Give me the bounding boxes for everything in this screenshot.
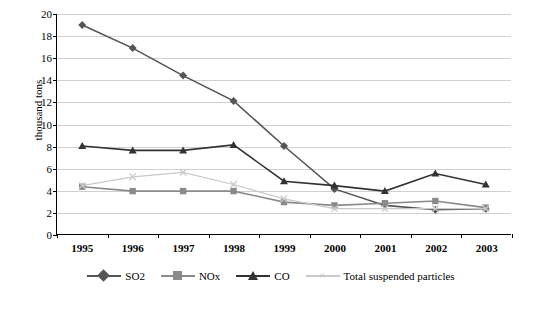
x-tick-label: 2001 <box>375 242 397 254</box>
legend-swatch-icon <box>87 270 121 282</box>
x-tick-mark <box>209 234 210 238</box>
data-point <box>483 204 489 210</box>
y-tick-label: 20 <box>41 8 52 20</box>
legend-item-so2[interactable]: SO2 <box>87 270 145 282</box>
y-axis-title: thousand tons <box>32 50 44 170</box>
y-tick-label: 4 <box>47 185 53 197</box>
x-tick-mark <box>512 234 513 238</box>
x-tick-label: 1998 <box>223 242 245 254</box>
y-tick-label: 14 <box>41 74 52 86</box>
legend-item-nox[interactable]: NOx <box>161 270 220 282</box>
x-tick-label: 1995 <box>71 242 93 254</box>
data-point <box>79 184 85 190</box>
x-tick-mark <box>57 234 58 238</box>
y-tick-label: 16 <box>41 52 52 64</box>
data-point <box>432 198 438 204</box>
y-tick-label: 8 <box>47 141 53 153</box>
chart-legend: SO2NOxCO×Total suspended particles <box>0 270 542 282</box>
x-tick-label: 1996 <box>122 242 144 254</box>
line-chart: thousand tons 02468101214161820 19951996… <box>0 0 542 315</box>
legend-label: SO2 <box>125 270 145 282</box>
x-tick-label: 2002 <box>425 242 447 254</box>
data-point <box>78 21 86 29</box>
series-layer <box>57 14 511 234</box>
x-tick-mark <box>158 234 159 238</box>
legend-item-co[interactable]: CO <box>236 270 289 282</box>
legend-swatch-icon: × <box>306 270 340 282</box>
y-tick-label: 12 <box>41 96 52 108</box>
data-point <box>129 44 137 52</box>
series-so2 <box>78 21 490 214</box>
x-tick-label: 2003 <box>476 242 498 254</box>
x-tick-label: 1999 <box>274 242 296 254</box>
legend-label: CO <box>274 270 289 282</box>
data-point <box>230 141 238 148</box>
plot-area: 02468101214161820 1995199619971998199920… <box>56 14 511 235</box>
series-nox <box>79 184 489 211</box>
legend-swatch-icon <box>161 270 195 282</box>
x-tick-mark <box>411 234 412 238</box>
data-point <box>180 188 186 194</box>
x-tick-label: 1997 <box>172 242 194 254</box>
data-point <box>431 206 439 214</box>
legend-label: Total suspended particles <box>344 270 455 282</box>
x-tick-mark <box>310 234 311 238</box>
data-point <box>331 202 337 208</box>
x-tick-label: 2000 <box>324 242 346 254</box>
legend-swatch-icon <box>236 270 270 282</box>
y-tick-label: 6 <box>47 163 53 175</box>
data-point <box>281 199 287 205</box>
data-point <box>431 170 439 177</box>
x-tick-mark <box>461 234 462 238</box>
x-tick-mark <box>259 234 260 238</box>
data-point <box>230 188 236 194</box>
data-point <box>129 188 135 194</box>
legend-label: NOx <box>199 270 220 282</box>
y-tick-label: 0 <box>47 229 53 241</box>
y-tick-label: 2 <box>47 207 53 219</box>
y-tick-label: 18 <box>41 30 52 42</box>
x-tick-mark <box>360 234 361 238</box>
data-point <box>382 200 388 206</box>
legend-item-total-suspended-particles[interactable]: ×Total suspended particles <box>306 270 455 282</box>
x-tick-mark <box>108 234 109 238</box>
data-point <box>179 72 187 80</box>
y-tick-label: 10 <box>41 119 52 131</box>
